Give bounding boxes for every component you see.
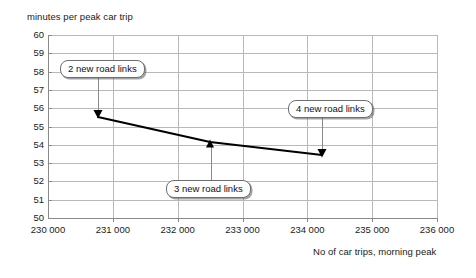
y-tick-50 <box>48 218 52 219</box>
y-tick-54 <box>48 145 52 146</box>
y-tick-label-59: 59 <box>18 48 44 58</box>
x-tick-234000 <box>307 218 308 222</box>
gridline-x-235000 <box>372 35 373 218</box>
y-tick-51 <box>48 200 52 201</box>
y-tick-label-56: 56 <box>18 103 44 113</box>
annotation-2-new-road-links[interactable]: 2 new road links <box>60 60 145 78</box>
leader-line-third <box>322 113 323 155</box>
x-axis-title: No of car trips, morning peak <box>313 246 436 257</box>
x-tick-label-235000: 235 000 <box>337 225 407 235</box>
x-tick-label-236000: 236 000 <box>402 225 472 235</box>
y-tick-label-53: 53 <box>18 158 44 168</box>
y-tick-label-54: 54 <box>18 140 44 150</box>
x-tick-label-231000: 231 000 <box>78 225 148 235</box>
leader-line-second <box>211 146 212 180</box>
y-axis-title: minutes per peak car trip <box>27 11 133 22</box>
y-tick-52 <box>48 181 52 182</box>
gridline-x-236000 <box>437 35 438 218</box>
x-tick-label-234000: 234 000 <box>272 225 342 235</box>
y-tick-59 <box>48 53 52 54</box>
x-tick-233000 <box>243 218 244 222</box>
leader-line-first <box>98 72 99 114</box>
x-tick-235000 <box>372 218 373 222</box>
y-tick-label-55: 55 <box>18 122 44 132</box>
x-tick-label-230000: 230 000 <box>13 225 83 235</box>
y-tick-label-51: 51 <box>18 195 44 205</box>
y-tick-57 <box>48 90 52 91</box>
y-tick-53 <box>48 163 52 164</box>
y-tick-label-58: 58 <box>18 67 44 77</box>
y-tick-60 <box>48 35 52 36</box>
y-tick-label-60: 60 <box>18 30 44 40</box>
y-tick-55 <box>48 127 52 128</box>
y-tick-label-50: 50 <box>18 213 44 223</box>
annotation-3-new-road-links[interactable]: 3 new road links <box>166 180 251 198</box>
y-tick-label-57: 57 <box>18 85 44 95</box>
y-tick-label-52: 52 <box>18 176 44 186</box>
annotation-4-new-road-links[interactable]: 4 new road links <box>288 100 373 118</box>
x-tick-236000 <box>437 218 438 222</box>
chart-root: minutes per peak car trip 60 59 58 57 56… <box>0 0 476 278</box>
y-tick-58 <box>48 72 52 73</box>
gridline-x-234000 <box>307 35 308 218</box>
x-tick-231000 <box>113 218 114 222</box>
x-tick-232000 <box>178 218 179 222</box>
x-tick-label-232000: 232 000 <box>143 225 213 235</box>
y-tick-56 <box>48 108 52 109</box>
x-tick-label-233000: 233 000 <box>208 225 278 235</box>
